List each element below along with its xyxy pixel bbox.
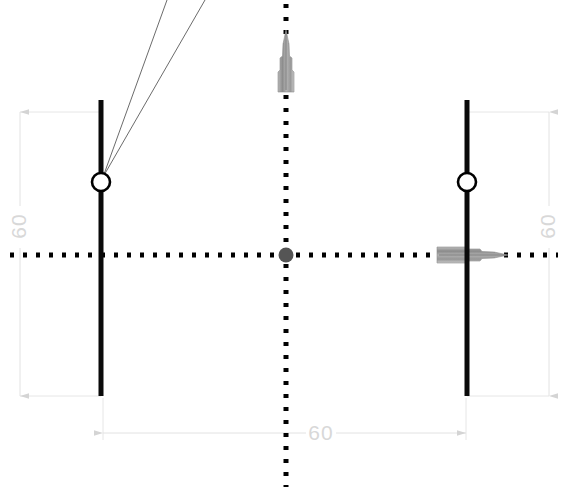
leader-line: [103, 0, 205, 177]
right-node-circle[interactable]: [458, 173, 476, 191]
dimension-left-vertical: 60: [7, 112, 101, 396]
left-node-circle[interactable]: [92, 173, 110, 191]
dimension-label-bottom-horizontal: 60: [308, 421, 333, 444]
horizontal-probe-tool: [437, 247, 508, 263]
vertical-probe-tool: [278, 30, 294, 92]
left-node-leader-lines: [103, 0, 205, 177]
center-origin-point[interactable]: [279, 248, 294, 263]
technical-drawing-canvas: 60 60 60: [0, 0, 568, 494]
dimension-label-right-vertical: 60: [536, 213, 559, 238]
dimension-label-left-vertical: 60: [7, 213, 30, 238]
cad-drawing-viewport: 60 60 60: [0, 0, 568, 494]
leader-line: [103, 0, 167, 177]
